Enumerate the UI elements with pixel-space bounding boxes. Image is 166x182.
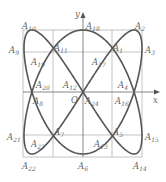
point-label-a3: A3: [145, 46, 155, 56]
point-label-a24: A24: [85, 97, 99, 107]
point-label-a18: A18: [86, 22, 100, 32]
point-label-a11: A11: [54, 44, 68, 54]
point-label-a4: A4: [118, 81, 128, 91]
point-label-a2: A2: [135, 22, 145, 32]
point-label-a7: A7: [54, 128, 64, 138]
point-label-a12: A12: [63, 81, 77, 91]
point-label-a9: A9: [9, 46, 19, 56]
point-label-a23: A23: [31, 140, 45, 150]
x-axis-arrow-icon: [154, 90, 160, 95]
point-label-a20: A20: [36, 81, 50, 91]
point-label-a5: A5: [113, 128, 123, 138]
point-label-a10: A10: [22, 22, 36, 32]
point-label-a21: A21: [7, 133, 21, 143]
point-label-a14: A14: [133, 162, 147, 172]
point-label-a19: A19: [31, 58, 45, 68]
origin-label: O: [71, 96, 78, 105]
x-axis-label: x: [153, 96, 158, 105]
point-label-a16: A16: [115, 97, 129, 107]
point-label-a6: A6: [78, 162, 88, 172]
point-label-a22: A22: [22, 162, 36, 172]
point-label-a15: A15: [145, 133, 159, 143]
point-label-a13: A13: [94, 140, 108, 150]
point-label-a1: A1: [113, 44, 123, 54]
y-axis-label: y: [75, 10, 80, 19]
y-axis-arrow-icon: [81, 12, 86, 18]
point-label-a17: A17: [92, 58, 106, 68]
point-label-a8: A8: [33, 97, 43, 107]
